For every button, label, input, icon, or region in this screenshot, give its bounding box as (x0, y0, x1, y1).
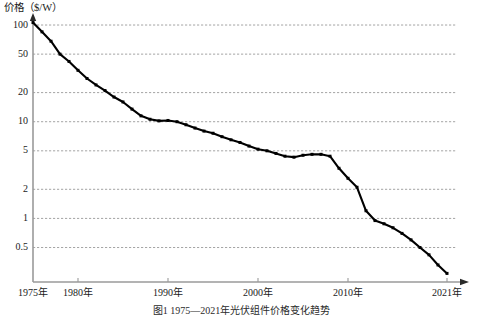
data-point-marker (239, 141, 242, 144)
data-point-marker (428, 253, 431, 256)
data-point-marker (158, 119, 161, 122)
data-point-marker (68, 60, 71, 63)
y-tick-label: 50 (0, 49, 28, 59)
data-point-marker (131, 108, 134, 111)
data-point-marker (275, 152, 278, 155)
data-point-marker (419, 246, 422, 249)
gridlines-group (33, 25, 456, 248)
data-point-marker (410, 238, 413, 241)
price-trend-line-chart (0, 0, 483, 316)
x-tick-label: 2000年 (237, 287, 279, 298)
y-tick-label: 0.5 (0, 242, 28, 252)
y-tick-label: 1 (0, 213, 28, 223)
data-point-marker (392, 226, 395, 229)
x-tick-label: 2010年 (327, 287, 369, 298)
data-point-marker (230, 138, 233, 141)
data-point-marker (41, 30, 44, 33)
data-point-marker (347, 177, 350, 180)
data-point-marker (113, 96, 116, 99)
data-point-marker (284, 155, 287, 158)
x-tick-label: 1975年 (12, 287, 54, 298)
data-point-marker (203, 130, 206, 133)
data-point-marker (104, 89, 107, 92)
data-point-marker (311, 153, 314, 156)
y-axis-arrowhead (30, 13, 36, 21)
data-point-marker (365, 209, 368, 212)
data-point-marker (176, 120, 179, 123)
data-point-marker (77, 69, 80, 72)
data-point-marker (86, 77, 89, 80)
data-point-marker (356, 186, 359, 189)
data-point-marker (59, 53, 62, 56)
data-point-marker (329, 155, 332, 158)
data-point-marker (32, 21, 35, 24)
data-point-marker (140, 114, 143, 117)
data-point-marker (383, 222, 386, 225)
data-point-marker (293, 156, 296, 159)
data-point-marker (302, 154, 305, 157)
data-point-marker (446, 272, 449, 275)
y-tick-label: 5 (0, 145, 28, 155)
y-tick-label: 10 (0, 116, 28, 126)
data-point-marker (185, 123, 188, 126)
data-point-marker (95, 83, 98, 86)
y-tick-label: 2 (0, 184, 28, 194)
data-point-marker (266, 149, 269, 152)
data-point-marker (149, 118, 152, 121)
x-axis-arrowhead (460, 279, 469, 285)
x-tick-label: 2021年 (426, 287, 468, 298)
y-axis-title: 价格（$/W） (4, 1, 62, 14)
x-tick-label: 1980年 (57, 287, 99, 298)
data-series-group (32, 21, 449, 275)
figure-container: 价格（$/W） 1005020105210.5 1975年1980年1990年2… (0, 0, 483, 316)
data-point-marker (212, 132, 215, 135)
data-point-marker (50, 40, 53, 43)
data-point-marker (167, 119, 170, 122)
data-point-marker (194, 127, 197, 130)
data-point-marker (338, 167, 341, 170)
data-point-marker (374, 219, 377, 222)
data-point-marker (122, 100, 125, 103)
y-tick-label: 100 (0, 20, 28, 30)
figure-caption: 图1 1975—2021年光伏组件价格变化趋势 (0, 305, 483, 316)
series-line (33, 23, 447, 274)
data-point-marker (221, 135, 224, 138)
data-point-marker (437, 263, 440, 266)
data-point-marker (320, 153, 323, 156)
x-tick-label: 1990年 (147, 287, 189, 298)
y-tick-label: 20 (0, 87, 28, 97)
data-point-marker (401, 232, 404, 235)
data-point-marker (248, 145, 251, 148)
data-point-marker (257, 148, 260, 151)
